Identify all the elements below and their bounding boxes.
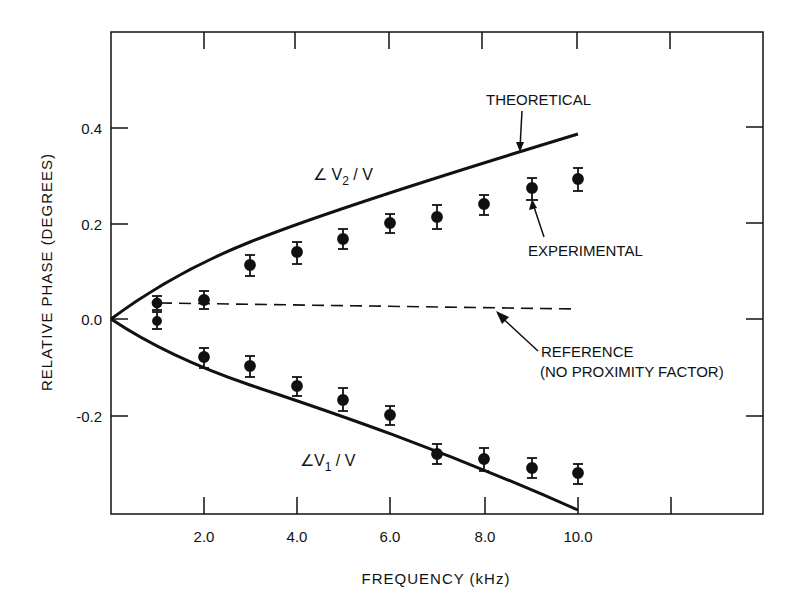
x-tick-label: 6.0 bbox=[380, 528, 401, 545]
reference-annotation-sub: (NO PROXIMITY FACTOR) bbox=[540, 363, 724, 380]
x-tick-labels: 2.0 4.0 6.0 8.0 10.0 bbox=[194, 528, 593, 545]
y-axis-title: RELATIVE PHASE (DEGREES) bbox=[38, 153, 55, 391]
y-tick-label: 0.2 bbox=[81, 216, 102, 233]
data-point bbox=[385, 406, 395, 425]
y-tick-label: -0.2 bbox=[76, 408, 102, 425]
x-tick-label: 10.0 bbox=[563, 528, 592, 545]
reference-annotation: REFERENCE bbox=[541, 343, 634, 360]
data-point bbox=[432, 205, 442, 229]
data-point bbox=[245, 255, 255, 276]
plot-frame bbox=[111, 32, 763, 514]
data-point bbox=[292, 377, 302, 396]
y-ticks-left bbox=[111, 128, 128, 416]
data-point bbox=[152, 312, 162, 329]
v2-curve-label: ∠ V2 / V bbox=[313, 166, 373, 188]
data-point bbox=[292, 242, 302, 264]
data-point bbox=[527, 458, 537, 478]
experimental-annotation: EXPERIMENTAL bbox=[528, 242, 643, 259]
x-ticks-bottom bbox=[204, 497, 671, 514]
x-tick-label: 8.0 bbox=[475, 528, 496, 545]
theoretical-annotation: THEORETICAL bbox=[486, 91, 591, 108]
data-point bbox=[338, 388, 348, 411]
experimental-v2-points bbox=[152, 168, 583, 310]
x-tick-label: 4.0 bbox=[287, 528, 308, 545]
data-point bbox=[338, 229, 348, 249]
experimental-v1-points bbox=[152, 312, 583, 484]
theoretical-v1-curve bbox=[111, 319, 578, 510]
data-point bbox=[526, 178, 538, 200]
phase-vs-frequency-chart: 2.0 4.0 6.0 8.0 10.0 0.4 0.2 0.0 -0.2 FR… bbox=[0, 0, 800, 606]
theoretical-v2-curve bbox=[111, 134, 578, 319]
data-point bbox=[385, 214, 395, 233]
data-point bbox=[245, 356, 255, 377]
v1-curve-label: ∠V1 / V bbox=[300, 452, 356, 474]
data-point bbox=[199, 291, 209, 309]
experimental-arrow bbox=[533, 204, 544, 237]
y-tick-label: 0.4 bbox=[81, 120, 102, 137]
y-tick-label: 0.0 bbox=[81, 311, 102, 328]
reference-dashed-line bbox=[160, 303, 578, 309]
data-point bbox=[152, 296, 162, 310]
data-point bbox=[573, 168, 583, 191]
y-ticks-right bbox=[746, 127, 763, 416]
y-tick-labels: 0.4 0.2 0.0 -0.2 bbox=[76, 120, 102, 425]
x-axis-title: FREQUENCY (kHz) bbox=[362, 570, 511, 587]
data-point bbox=[432, 444, 442, 464]
data-point bbox=[479, 195, 489, 215]
x-ticks-top bbox=[204, 32, 670, 49]
x-tick-label: 2.0 bbox=[194, 528, 215, 545]
data-point bbox=[573, 464, 583, 484]
